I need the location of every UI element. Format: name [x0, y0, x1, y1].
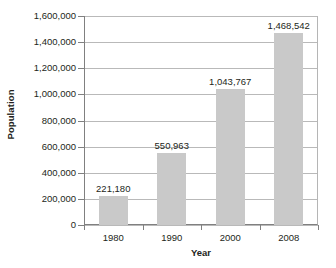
y-tick-label-wrap: 1,200,000: [18, 63, 76, 73]
y-tick-label: 800,000: [18, 116, 76, 126]
y-axis-title: Population: [0, 0, 20, 228]
y-axis-title-label: Population: [5, 89, 16, 139]
y-tick-label-wrap: 0: [18, 220, 76, 230]
x-tick-label: 1980: [83, 232, 143, 243]
x-tick-label: 1990: [142, 232, 202, 243]
bar-value-label: 550,963: [132, 140, 212, 151]
bar-value-label: 221,180: [73, 183, 153, 194]
y-tick-label-wrap: 400,000: [18, 168, 76, 178]
x-tick-label: 2000: [200, 232, 260, 243]
y-tick-label: 0: [18, 220, 76, 230]
bar-value-label: 1,043,767: [190, 76, 270, 87]
y-tick-label: 600,000: [18, 142, 76, 152]
x-tick-mark: [201, 225, 202, 230]
y-tick-label-wrap: 600,000: [18, 142, 76, 152]
bar-value-label: 1,468,542: [249, 20, 329, 31]
y-tick-label: 400,000: [18, 168, 76, 178]
x-tick-mark: [260, 225, 261, 230]
x-tick-mark: [318, 225, 319, 230]
y-tick-label-wrap: 1,600,000: [18, 11, 76, 21]
x-axis-title: Year: [84, 247, 318, 258]
y-tick-label: 1,000,000: [18, 89, 76, 99]
x-tick-label: 2008: [259, 232, 319, 243]
population-bar-chart: Population 0200,000400,000600,000800,000…: [0, 0, 336, 268]
x-tick-mark: [143, 225, 144, 230]
y-tick-label-wrap: 200,000: [18, 194, 76, 204]
bar: [99, 196, 128, 225]
y-tick-label-wrap: 800,000: [18, 116, 76, 126]
y-tick-label: 1,400,000: [18, 37, 76, 47]
bar: [274, 33, 303, 225]
y-tick-label-wrap: 1,000,000: [18, 89, 76, 99]
y-tick-label: 200,000: [18, 194, 76, 204]
y-tick-label: 1,600,000: [18, 11, 76, 21]
bar: [157, 153, 186, 225]
y-tick-label-wrap: 1,400,000: [18, 37, 76, 47]
bar: [216, 89, 245, 225]
y-tick-label: 1,200,000: [18, 63, 76, 73]
x-tick-mark: [84, 225, 85, 230]
